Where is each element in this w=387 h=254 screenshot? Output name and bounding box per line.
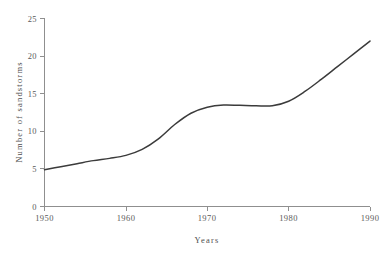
y-tick-label-20: 20 xyxy=(28,51,37,61)
line-chart-figure: 0 5 10 15 20 25 1950 1960 1970 1980 1990… xyxy=(0,0,387,254)
y-axis-title: Number of sandstorms xyxy=(14,61,24,162)
y-tick-label-25: 25 xyxy=(28,14,37,24)
y-tick-label-0: 0 xyxy=(32,202,37,212)
chart-canvas: 0 5 10 15 20 25 1950 1960 1970 1980 1990… xyxy=(0,0,387,254)
y-tick-label-15: 15 xyxy=(28,89,37,99)
x-tick-label-1990: 1990 xyxy=(361,213,380,223)
x-tick-label-1970: 1970 xyxy=(198,213,217,223)
data-series-sandstorms xyxy=(45,41,371,170)
y-tick-label-10: 10 xyxy=(28,126,37,136)
x-axis-title: Years xyxy=(195,235,220,245)
y-tick-label-5: 5 xyxy=(32,164,37,174)
x-tick-label-1960: 1960 xyxy=(117,213,136,223)
x-tick-label-1980: 1980 xyxy=(279,213,298,223)
x-tick-label-1950: 1950 xyxy=(35,213,54,223)
